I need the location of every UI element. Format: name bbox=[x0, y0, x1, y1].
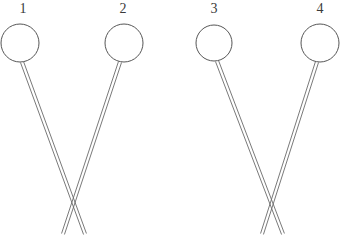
pin-head-4 bbox=[301, 24, 339, 62]
pin-stem-3-edge-b bbox=[218, 60, 284, 233]
pin-stem-1-edge-a bbox=[20, 63, 83, 235]
pin-diagram-svg bbox=[0, 0, 356, 235]
pin-heads-group bbox=[1, 24, 339, 62]
pin-head-1 bbox=[1, 24, 39, 62]
pin-head-3 bbox=[196, 25, 232, 61]
pin-stems-group bbox=[20, 60, 318, 234]
pin-stem-1-edge-b bbox=[24, 61, 87, 233]
pin-label-3: 3 bbox=[204, 2, 224, 16]
pin-stem-2-edge-a bbox=[62, 61, 119, 233]
pin-stem-4-edge-a bbox=[261, 62, 316, 234]
figure-canvas: 1 2 3 4 bbox=[0, 0, 356, 235]
pin-label-1: 1 bbox=[13, 2, 33, 16]
pin-stem-2-edge-b bbox=[64, 63, 121, 235]
pin-label-2: 2 bbox=[113, 2, 133, 16]
pin-stem-4-edge-b bbox=[263, 62, 318, 234]
pin-head-2 bbox=[105, 24, 143, 62]
pin-label-4: 4 bbox=[310, 2, 330, 16]
